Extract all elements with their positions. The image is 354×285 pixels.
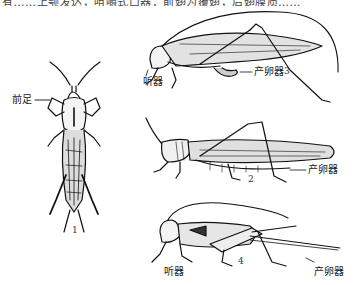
number-2: 2 (248, 175, 254, 184)
number-1: 1 (72, 226, 78, 235)
cricket-drawing (152, 203, 340, 266)
mole-cricket-drawing (35, 62, 100, 232)
label-ovipositor-3: 产卵器 (254, 66, 284, 77)
insect-diagram: 有……上颚发达，咀嚼式口器；前翅为覆翅，后翅膜质…… (0, 0, 354, 285)
label-ear-4: 听器 (164, 266, 184, 277)
label-ovipositor-2: 产卵器 (308, 164, 338, 175)
label-ear-3: 听器 (143, 76, 163, 87)
label-foreleg: 前足 (12, 94, 32, 105)
label-ovipositor-4: 产卵器 (314, 266, 344, 277)
line-drawings (0, 0, 354, 285)
grasshopper-drawing (146, 118, 334, 182)
number-3: 3 (284, 67, 290, 76)
number-4: 4 (238, 257, 244, 266)
katydid-drawing (146, 12, 338, 102)
